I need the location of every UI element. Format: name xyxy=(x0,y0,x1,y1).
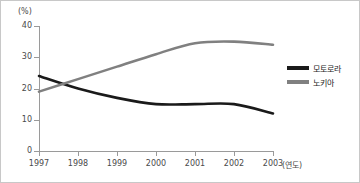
legend-label: 노키아 xyxy=(313,77,334,88)
legend-label: 모토로라 xyxy=(313,63,341,74)
legend-item[interactable]: 노키아 xyxy=(287,75,359,89)
plot-area xyxy=(1,1,360,183)
chart-figure: (%) 403020100 19971998199920002001200220… xyxy=(0,0,360,183)
chart-legend: 모토로라노키아 xyxy=(287,61,359,89)
legend-item[interactable]: 모토로라 xyxy=(287,61,359,75)
legend-swatch xyxy=(287,80,309,84)
series-line xyxy=(39,41,273,91)
legend-swatch xyxy=(287,66,309,70)
